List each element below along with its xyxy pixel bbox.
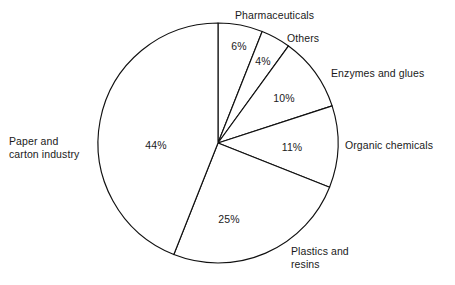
slice-value-enzymes-and-glues: 10% [273,92,294,104]
category-label-organic-chemicals: Organic chemicals [345,139,433,152]
category-label-enzymes-and-glues: Enzymes and glues [331,67,424,80]
slice-value-organic-chemicals: 11% [282,141,303,153]
slice-value-paper-and-carton-industry: 44% [145,139,166,151]
category-label-others: Others [287,32,319,45]
category-label-plastics-and-resins: Plastics and resins [291,245,349,270]
category-label-paper-and-carton-industry: Paper and carton industry [9,135,79,160]
pie-chart-figure: 6%4%10%11%25%44% PharmaceuticalsOthersEn… [0,0,455,285]
slice-value-others: 4% [255,55,270,67]
category-label-pharmaceuticals: Pharmaceuticals [235,9,314,22]
slice-value-pharmaceuticals: 6% [231,40,246,52]
slice-value-plastics-and-resins: 25% [218,213,239,225]
